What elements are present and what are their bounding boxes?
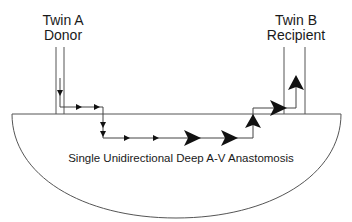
placenta-outline (12, 114, 341, 218)
twin-b-role: Recipient (262, 28, 330, 43)
twin-a-role: Donor (38, 28, 88, 43)
twin-b-title: Twin B (262, 13, 330, 28)
large-arrow-icons (184, 75, 304, 146)
twin-a-title: Twin A (38, 13, 88, 28)
twin-a-label: Twin A Donor (38, 13, 88, 43)
anastomosis-caption: Single Unidirectional Deep A-V Anastomos… (40, 152, 322, 164)
small-arrow-icons (57, 90, 159, 141)
twin-b-label: Twin B Recipient (262, 13, 330, 43)
